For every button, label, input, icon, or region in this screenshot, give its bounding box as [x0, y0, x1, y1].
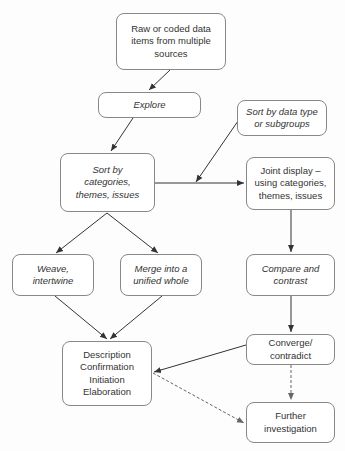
node-weave: Weave, intertwine — [12, 254, 94, 296]
node-joint-display: Joint display – using categories, themes… — [246, 157, 335, 210]
dashed-arrow-description-to-further — [153, 373, 244, 423]
node-converge-contradict: Converge/ contradict — [246, 334, 335, 365]
node-further-investigation: Further investigation — [246, 402, 335, 443]
arrow-explore-to-sort-categories — [111, 118, 133, 151]
arrow-merge-to-description — [110, 296, 162, 339]
arrow-sort-categories-to-merge — [107, 213, 158, 253]
arrow-sort-categories-to-weave — [56, 213, 107, 253]
node-sort-by-categories: Sort by categories, themes, issues — [60, 153, 155, 212]
arrow-weave-to-description — [55, 296, 107, 339]
arrow-raw-to-explore — [149, 70, 170, 90]
arrow-sort-type-to-edge — [196, 121, 238, 182]
node-description-outcomes: Description Confirmation Initiation Elab… — [62, 341, 152, 406]
node-merge: Merge into a unified whole — [120, 254, 202, 296]
arrow-converge-to-description — [154, 345, 246, 372]
node-compare-contrast: Compare and contrast — [246, 254, 335, 296]
node-explore: Explore — [98, 92, 201, 118]
node-sort-by-data-type: Sort by data type or subgroups — [237, 100, 327, 136]
node-raw-data: Raw or coded data items from multiple so… — [116, 13, 226, 70]
